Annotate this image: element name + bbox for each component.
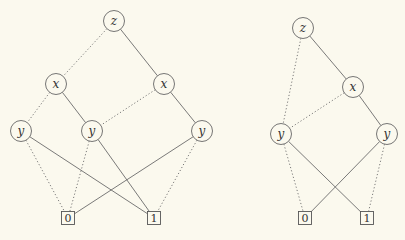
- low-edge-x1-y1: [27, 92, 49, 122]
- node-label: 0: [302, 212, 309, 225]
- variable-node-x: x: [343, 77, 364, 98]
- low-edge-x2-y2: [101, 90, 155, 126]
- variable-node-y: y: [11, 121, 32, 142]
- high-edge-y1-t1: [289, 141, 361, 211]
- low-edge-y2-t0: [70, 141, 89, 211]
- terminal-node-0: 0: [299, 212, 312, 226]
- low-edge-y3-t1: [158, 140, 197, 211]
- high-edge-z-x2: [121, 29, 158, 76]
- high-edge-y2-t1: [98, 140, 149, 212]
- high-edge-x1-y2: [62, 92, 85, 122]
- low-edge-z-y1: [283, 38, 301, 123]
- low-edge-y1-t0: [284, 144, 303, 211]
- high-edge-x2-y3: [171, 92, 196, 123]
- low-edge-y2-t1: [369, 144, 385, 211]
- node-label: y: [383, 127, 391, 141]
- low-edge-z-x1: [63, 29, 107, 77]
- node-label: z: [110, 14, 118, 28]
- node-label: y: [17, 124, 25, 138]
- high-edge-y2-t0: [311, 142, 379, 212]
- variable-node-y: y: [82, 121, 103, 142]
- variable-node-z: z: [104, 11, 125, 32]
- node-label: z: [299, 21, 307, 35]
- node-label: 0: [65, 212, 72, 225]
- high-edge-y3-t0: [75, 137, 194, 214]
- variable-node-x: x: [46, 74, 67, 95]
- terminal-node-1: 1: [361, 212, 374, 226]
- variable-node-y: y: [271, 124, 292, 145]
- node-label: y: [198, 124, 206, 138]
- node-label: y: [88, 124, 96, 138]
- variable-node-y: y: [192, 121, 213, 142]
- low-edge-y1-t0: [26, 140, 64, 211]
- node-label: x: [350, 80, 357, 94]
- node-label: x: [161, 77, 168, 91]
- terminal-node-1: 1: [148, 212, 161, 226]
- high-edge-x-y2: [359, 96, 381, 126]
- terminal-node-0: 0: [62, 212, 75, 226]
- node-label: 1: [151, 212, 158, 225]
- node-label: y: [277, 127, 285, 141]
- node-label: 1: [364, 212, 371, 225]
- node-label: x: [53, 77, 60, 91]
- high-edge-y1-t1: [30, 137, 148, 214]
- variable-node-x: x: [154, 74, 175, 95]
- low-edge-x-y1: [290, 93, 344, 129]
- variable-node-y: y: [377, 124, 398, 145]
- high-edge-z-x: [310, 36, 346, 79]
- variable-node-z: z: [293, 18, 314, 39]
- nodes-layer: zxxyyy01zxyy01: [11, 11, 398, 226]
- bdd-figure: zxxyyy01zxyy01: [0, 0, 405, 240]
